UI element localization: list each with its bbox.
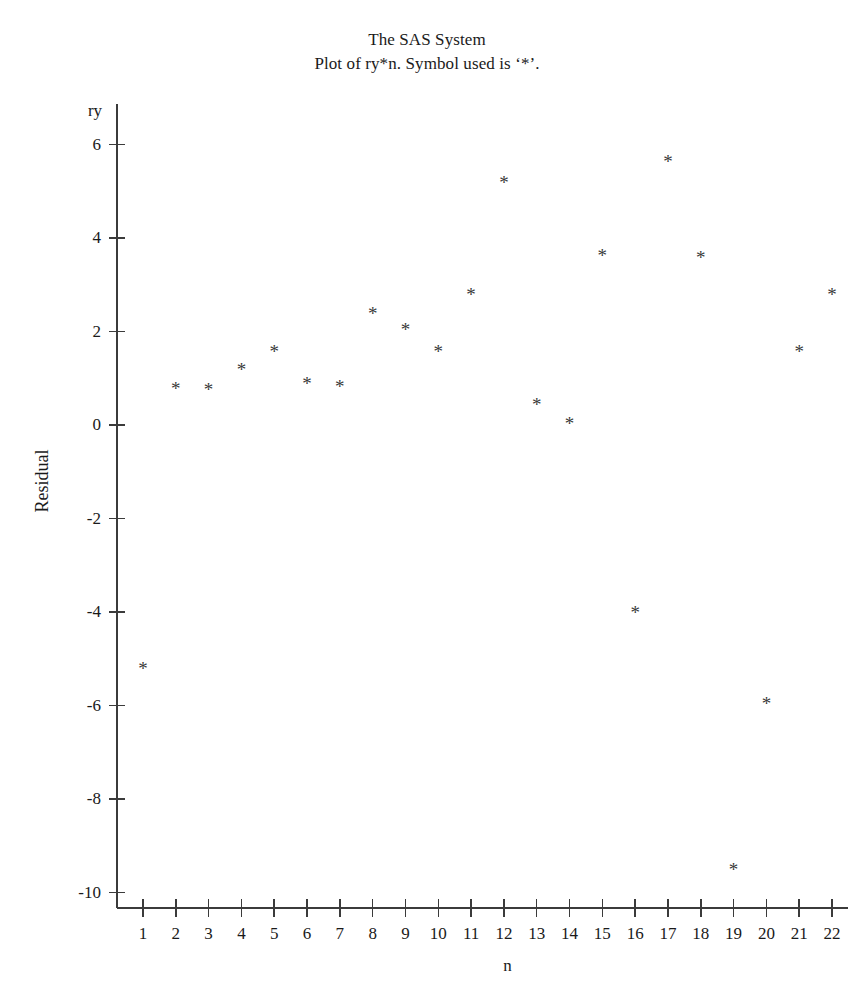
y-tick-label: -8: [47, 789, 101, 809]
x-tick-label: 8: [368, 924, 377, 944]
y-tick-label: -6: [47, 696, 101, 716]
y-tick-label: 2: [47, 322, 101, 342]
y-tick-label: 6: [47, 135, 101, 155]
data-point-marker: *: [598, 245, 608, 264]
x-tick-label: 1: [139, 924, 148, 944]
x-tick-label: 11: [463, 924, 479, 944]
x-tick-label: 4: [237, 924, 246, 944]
x-tick-label: 19: [725, 924, 742, 944]
x-tick-label: 15: [594, 924, 611, 944]
x-tick-label: 22: [824, 924, 841, 944]
data-point-marker: *: [138, 659, 148, 678]
y-variable-label: ry: [88, 101, 102, 121]
sas-plot-page: The SAS System Plot of ry*n. Symbol used…: [0, 0, 854, 992]
data-point-marker: *: [368, 304, 378, 323]
x-tick-label: 20: [758, 924, 775, 944]
y-tick-label: -4: [47, 602, 101, 622]
x-tick-label: 2: [172, 924, 181, 944]
x-tick-label: 13: [528, 924, 545, 944]
data-point-marker: *: [401, 320, 411, 339]
data-point-marker: *: [663, 152, 673, 171]
x-tick-label: 6: [303, 924, 312, 944]
x-tick-label: 17: [659, 924, 676, 944]
x-axis-title: n: [503, 956, 512, 976]
x-tick-label: 3: [204, 924, 213, 944]
y-tick-label: 4: [47, 228, 101, 248]
data-point-marker: *: [302, 374, 312, 393]
plot-axes-svg: [0, 0, 854, 992]
x-tick-label: 5: [270, 924, 279, 944]
data-point-marker: *: [729, 860, 739, 879]
y-tick-label: -2: [47, 509, 101, 529]
x-tick-label: 7: [336, 924, 345, 944]
data-point-marker: *: [499, 173, 509, 192]
y-tick-label: 0: [47, 415, 101, 435]
x-tick-label: 16: [627, 924, 644, 944]
plot-area: ry Residual n 6420-2-4-6-8-10 1234567891…: [0, 0, 854, 992]
data-point-marker: *: [204, 379, 214, 398]
data-point-marker: *: [269, 341, 279, 360]
data-point-marker: *: [794, 341, 804, 360]
x-tick-label: 9: [401, 924, 410, 944]
x-tick-label: 12: [495, 924, 512, 944]
x-tick-label: 14: [561, 924, 578, 944]
data-point-marker: *: [335, 376, 345, 395]
data-point-marker: *: [171, 378, 181, 397]
data-point-marker: *: [696, 248, 706, 267]
x-tick-label: 21: [791, 924, 808, 944]
data-point-marker: *: [762, 694, 772, 713]
data-point-marker: *: [827, 285, 837, 304]
y-axis-title: Residual: [32, 450, 53, 513]
data-point-marker: *: [532, 395, 542, 414]
axis-lines: [117, 104, 848, 908]
y-tick-label: -10: [47, 883, 101, 903]
x-tick-label: 10: [430, 924, 447, 944]
data-point-marker: *: [466, 285, 476, 304]
data-point-marker: *: [237, 360, 247, 379]
data-point-marker: *: [565, 413, 575, 432]
data-point-marker: *: [434, 341, 444, 360]
x-tick-label: 18: [692, 924, 709, 944]
data-point-marker: *: [630, 603, 640, 622]
